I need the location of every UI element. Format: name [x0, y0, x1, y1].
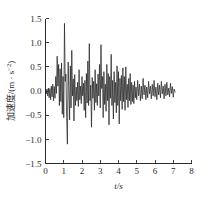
x-tick-label: 7	[171, 166, 176, 176]
y-tick-label: −1.0	[25, 135, 42, 145]
y-axis-title: 加速度/(m · s−2)	[5, 61, 16, 121]
y-axis-title-exponent: −2	[5, 64, 12, 71]
y-tick-label: 1.5	[30, 14, 42, 24]
series-line-acceleration	[46, 23, 176, 144]
x-tick-label: 0	[43, 166, 48, 176]
acceleration-time-history-chart: 012345678−1.5−1.0−0.50.00.51.01.5t/s加速度/…	[0, 0, 211, 202]
x-tick-label: 6	[153, 166, 158, 176]
y-tick-label: −0.5	[25, 110, 42, 120]
y-tick-label: 1.0	[30, 38, 42, 48]
y-axis-title-main: 加速度/(m · s	[5, 70, 16, 121]
y-tick-label: −1.5	[25, 159, 42, 169]
x-tick-label: 8	[189, 166, 194, 176]
x-tick-label: 1	[62, 166, 67, 176]
chart-figure: 012345678−1.5−1.0−0.50.00.51.01.5t/s加速度/…	[0, 0, 211, 202]
x-tick-label: 4	[116, 166, 121, 176]
y-tick-label: 0.0	[30, 86, 42, 96]
y-tick-label: 0.5	[30, 62, 42, 72]
series-layer	[46, 23, 176, 144]
y-axis-title-tail: )	[6, 61, 16, 64]
x-axis-title: t/s	[114, 181, 123, 191]
x-tick-label: 2	[80, 166, 85, 176]
x-tick-label: 3	[98, 166, 103, 176]
x-tick-label: 5	[135, 166, 140, 176]
